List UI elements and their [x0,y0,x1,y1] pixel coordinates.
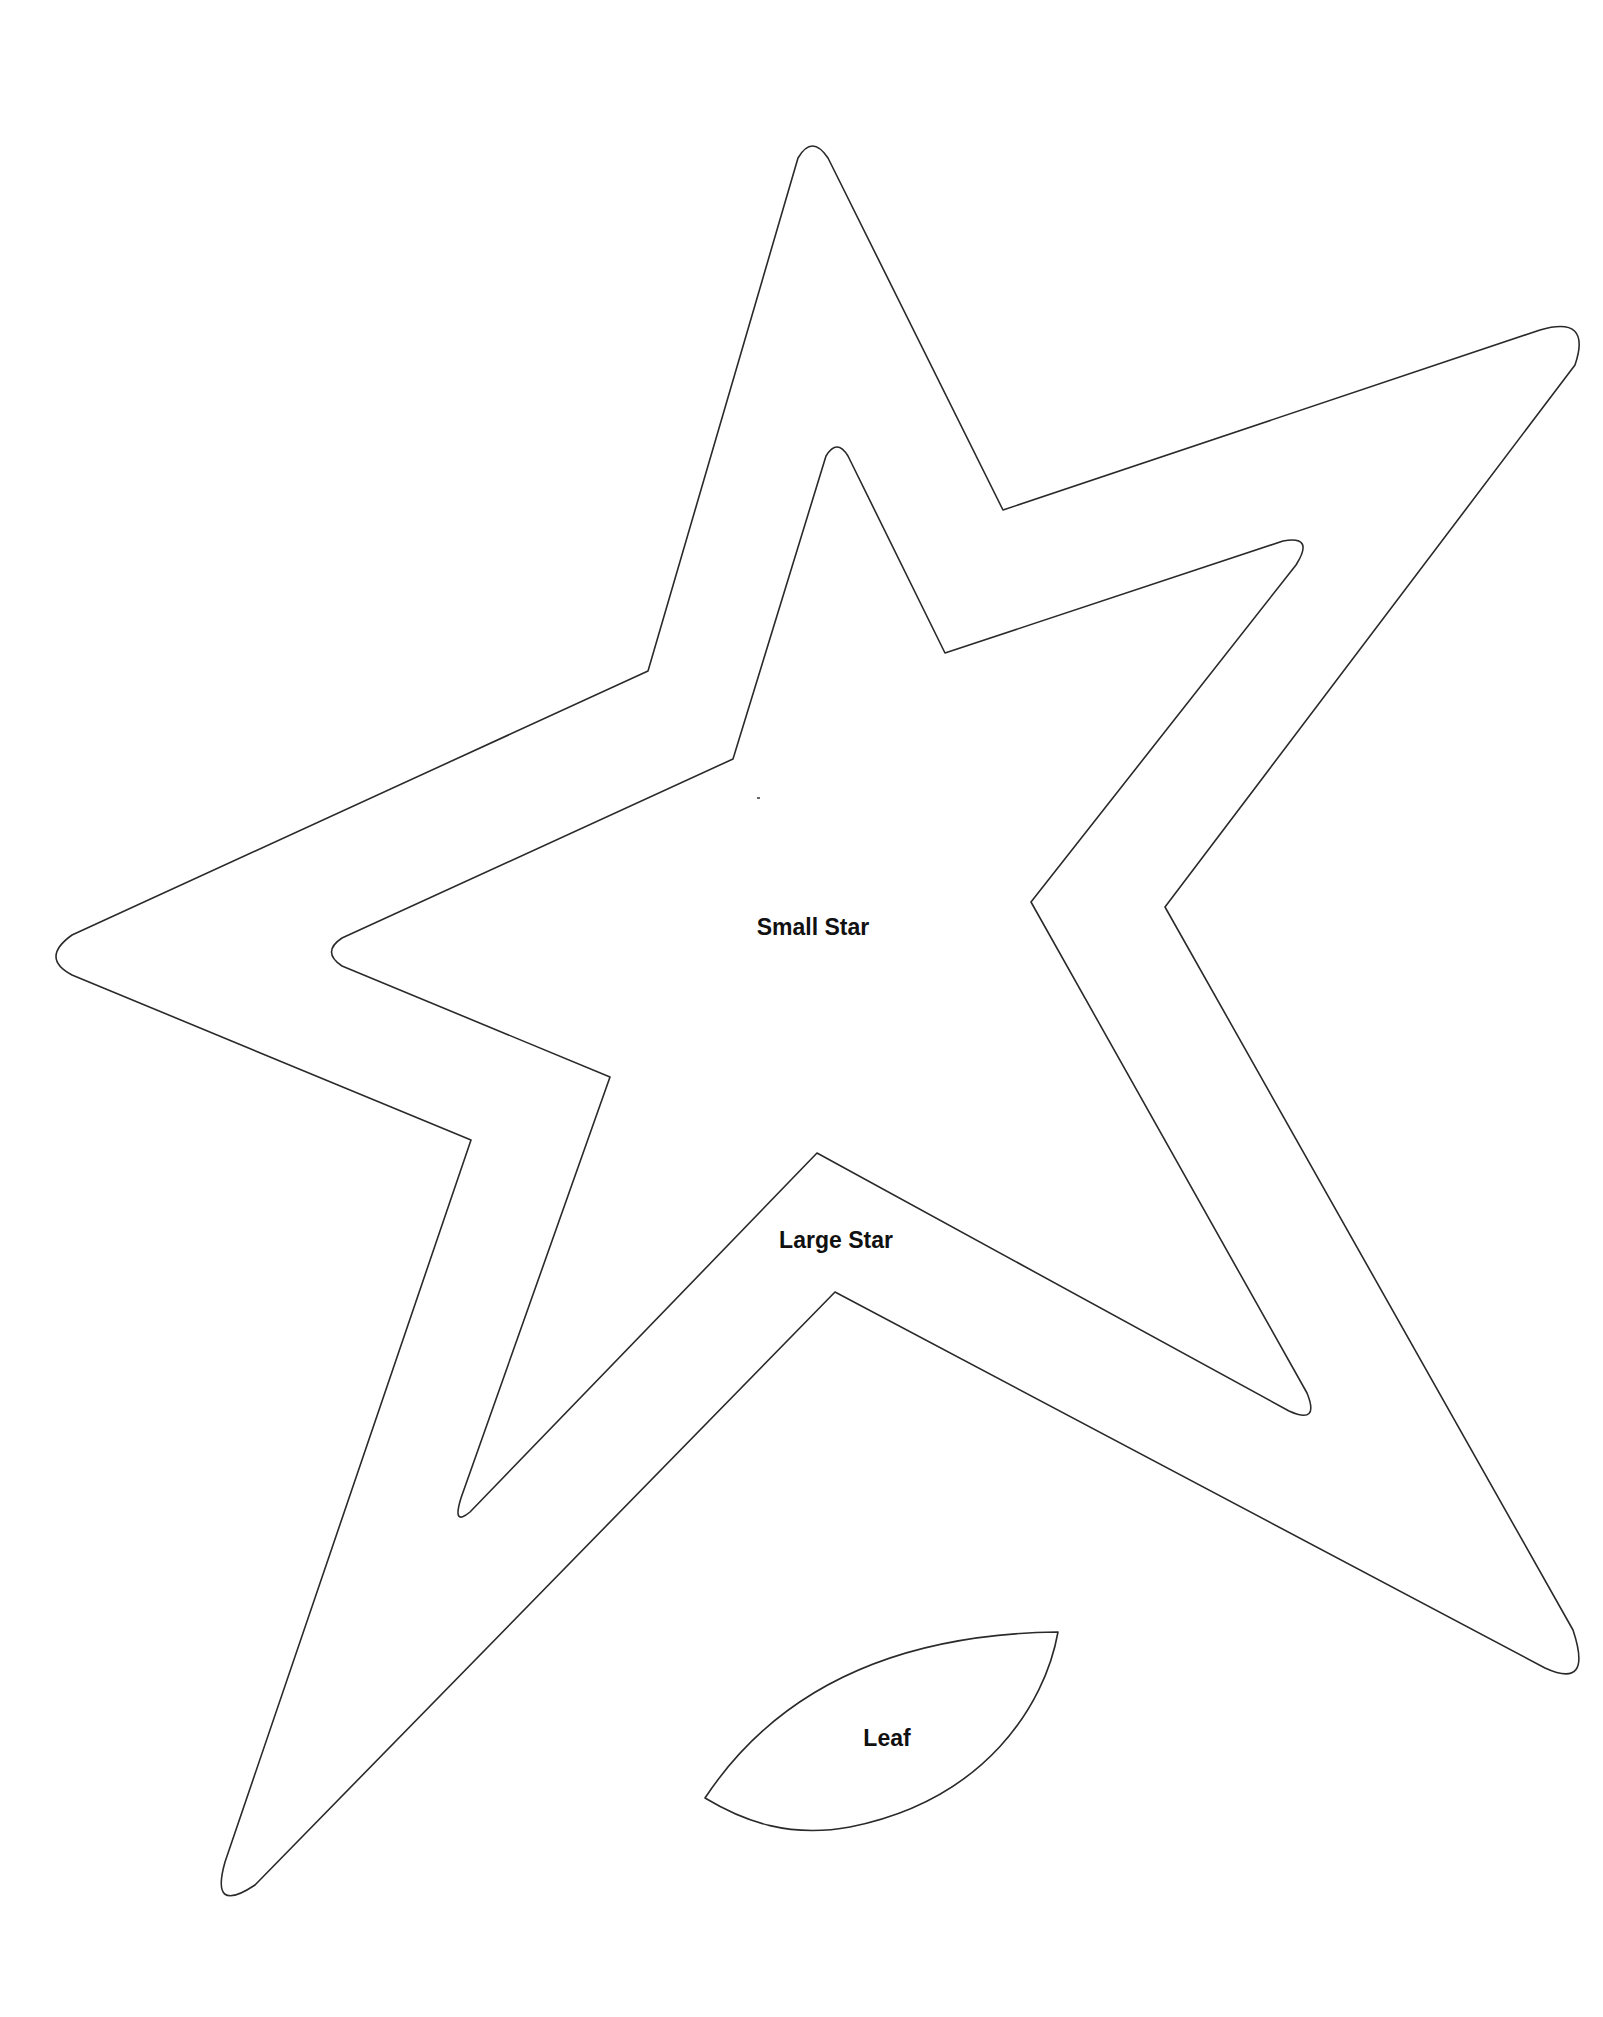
template-canvas [0,0,1603,2017]
large-star-outline [56,146,1579,1896]
small-star-outline [332,447,1311,1517]
leaf-label: Leaf [863,1725,910,1752]
small-star-label: Small Star [757,914,870,941]
large-star-label: Large Star [779,1227,893,1254]
stray-mark [757,797,760,799]
